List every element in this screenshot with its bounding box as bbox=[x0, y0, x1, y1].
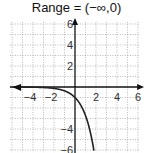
y-tick-label: 2 bbox=[67, 60, 73, 72]
x-tick-label: −4 bbox=[24, 91, 37, 103]
x-tick-label: −2 bbox=[45, 91, 58, 103]
plot-area: −4−2246642−4−6 bbox=[0, 0, 153, 153]
y-tick-label: −4 bbox=[60, 123, 73, 135]
x-tick-label: 4 bbox=[114, 91, 120, 103]
x-tick-label: 6 bbox=[135, 91, 141, 103]
y-tick-label: −6 bbox=[60, 144, 73, 153]
y-tick-label: 6 bbox=[67, 18, 73, 30]
axes bbox=[10, 18, 144, 153]
x-tick-label: 2 bbox=[93, 91, 99, 103]
tick-labels: −4−2246642−4−6 bbox=[24, 18, 141, 153]
curve-arrow-icon bbox=[12, 84, 21, 91]
y-tick-label: 4 bbox=[67, 39, 73, 51]
x-axis-arrow-icon bbox=[137, 84, 144, 90]
